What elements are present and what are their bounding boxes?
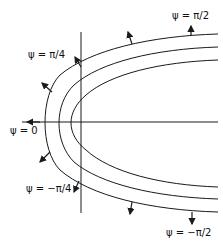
arrow-psi-neg-pi-4 [74, 181, 79, 192]
inner-curve [71, 60, 218, 187]
label-psi-neg-pi-over-2: ψ = −π/2 [166, 228, 211, 238]
arrow-upper-left [42, 83, 52, 92]
label-psi-pi-over-2: ψ = π/2 [172, 11, 209, 21]
label-psi-neg-pi-over-4: ψ = −π/4 [26, 184, 71, 194]
arrow-lower-left [40, 152, 50, 162]
arrow-bottom-mid [130, 202, 132, 214]
diagram-canvas: ψ = π/2 ψ = π/4 ψ = 0 ψ = −π/4 ψ = −π/2 [0, 0, 223, 246]
label-psi-zero: ψ = 0 [10, 126, 38, 136]
arrow-top-mid [128, 32, 132, 44]
diagram-svg [0, 0, 223, 246]
label-psi-pi-over-4: ψ = π/4 [28, 50, 65, 60]
